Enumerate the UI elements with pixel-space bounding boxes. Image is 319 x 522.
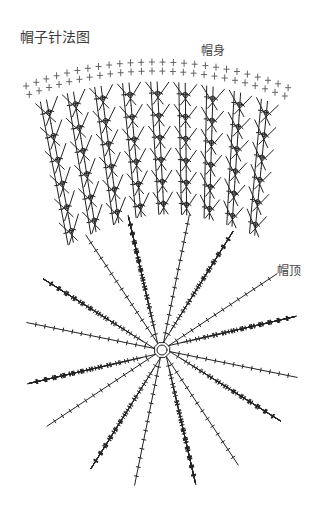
crochet-chart — [0, 0, 319, 522]
hat-crown-stitches — [27, 215, 297, 485]
hat-body-stitches — [23, 59, 291, 245]
